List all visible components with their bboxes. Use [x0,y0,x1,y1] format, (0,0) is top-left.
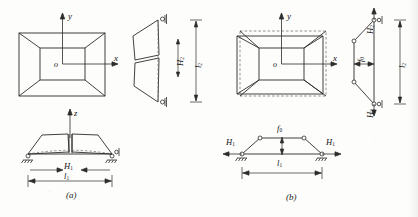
front-b-label-h1-right: H1 [326,138,335,147]
front-b-label-l1: l1 [277,159,282,168]
front-a-dim-l1 [28,175,112,187]
side-b-support-top [377,16,382,24]
front-b-label-h1-left: H1 [226,138,235,147]
plan-view-b: y x o [228,6,353,106]
front-elevation-a: z H1 l1 [12,108,140,193]
figure-root: y x o [0,0,418,217]
front-b-label-f0: f0 [277,124,282,133]
side-b-dim-rise [354,62,374,66]
plan-b-label-origin: o [273,61,277,69]
front-a-label-z: z [74,109,77,118]
side-b-label-h2-bottom: H2 [366,109,375,118]
plan-b-label-y: y [287,12,291,21]
front-elevation-b: H1 H1 f0 l1 [218,116,356,201]
front-a-shell-right [72,134,112,154]
front-a-label-l1: l1 [64,172,69,181]
front-b-dim-rise [280,137,283,155]
front-a-support-left [22,154,34,163]
plan-a-label-origin: o [54,61,58,69]
plan-a-hip-tl [19,33,40,48]
side-b-label-h2-top: H2 [366,25,375,34]
side-elevation-a: H2 l2 [128,8,208,110]
side-b-label-l2: l2 [398,63,407,68]
plan-a-axis-y-arrow [60,13,64,19]
side-a-support-top [161,14,167,24]
front-a-label-h1: H1 [64,162,73,171]
side-a-support-bottom [161,97,167,107]
plan-b-axis-y-arrow [279,13,283,19]
plan-a-label-y: y [68,12,72,21]
caption-b: (b) [286,192,297,202]
plan-a-hip-br [85,80,105,96]
side-a-label-l2: l2 [194,63,203,68]
plan-a-label-x: x [114,54,118,63]
front-a-roller-right [115,148,119,156]
plan-a-hip-tr [85,33,105,48]
front-a-support-right [106,154,118,163]
caption-a: (a) [66,190,77,200]
plan-view-a: y x o [10,6,135,106]
side-a-dim-outer [190,20,202,102]
front-a-axis-z-arrow [68,109,72,115]
side-b-support-bottom [377,100,382,108]
plan-a-hip-bl [19,80,40,96]
side-a-label-h2: H2 [176,57,185,66]
front-b-support-left [236,158,248,161]
side-a-profile-upper [133,20,159,60]
plan-b-label-x: x [333,54,337,63]
front-b-support-right [316,158,328,161]
front-b-dim-span [242,167,322,179]
front-a-shell-left [28,134,69,154]
side-elevation-b: H2 H2 f0 l2 [344,8,418,118]
side-a-profile-lower [134,58,159,102]
side-b-label-f0: f0 [356,57,365,62]
